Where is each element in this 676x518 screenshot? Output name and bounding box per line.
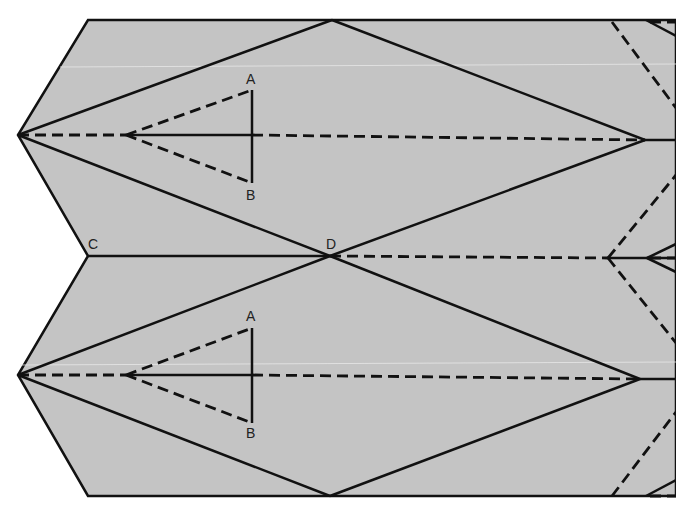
point-label-a2: A [246,308,256,324]
point-label-b2: B [246,425,255,441]
point-label-d: D [326,236,336,252]
point-label-b1: B [246,187,255,203]
fold-diagram: ABCDAB [0,0,676,518]
point-label-c: C [88,236,98,252]
point-label-a1: A [246,71,256,87]
